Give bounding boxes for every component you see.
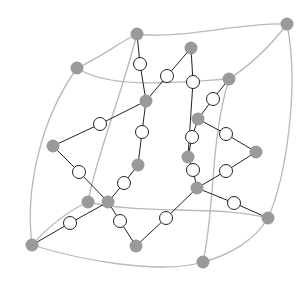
white-node — [187, 76, 200, 89]
gray-node — [182, 151, 195, 164]
curve — [137, 24, 287, 35]
white-node — [64, 217, 77, 230]
gray-node — [191, 182, 204, 195]
gray-node — [47, 140, 60, 153]
white-node — [207, 93, 220, 106]
white-node — [114, 215, 127, 228]
curve — [32, 202, 88, 245]
white-node — [228, 197, 241, 210]
white-node — [160, 212, 173, 225]
gray-node — [281, 18, 294, 31]
white-node — [136, 126, 149, 139]
diagram-canvas — [0, 0, 308, 285]
white-node — [73, 166, 86, 179]
gray-node — [185, 42, 198, 55]
gray-node-layer — [26, 18, 294, 269]
gray-node — [102, 196, 115, 209]
white-node — [118, 177, 131, 190]
gray-node — [262, 212, 275, 225]
graph-diagram — [0, 0, 308, 285]
white-node — [220, 128, 233, 141]
gray-node — [71, 62, 84, 75]
gray-node — [26, 239, 39, 252]
edge — [100, 101, 146, 124]
gray-node — [223, 73, 236, 86]
white-node — [94, 118, 107, 131]
curve — [77, 68, 229, 83]
white-node — [186, 131, 199, 144]
gray-node — [250, 146, 263, 159]
gray-node — [192, 113, 205, 126]
curve — [229, 24, 287, 79]
curve — [77, 34, 137, 68]
gray-node — [140, 95, 153, 108]
gray-node — [130, 240, 143, 253]
white-node — [220, 165, 233, 178]
curve — [32, 245, 203, 267]
curve — [203, 218, 268, 262]
curve — [268, 24, 292, 218]
white-node — [187, 164, 200, 177]
curve-layer — [30, 24, 292, 267]
gray-node — [132, 159, 145, 172]
white-node — [134, 58, 147, 71]
gray-node — [131, 28, 144, 41]
gray-node — [82, 196, 95, 209]
white-node — [161, 70, 174, 83]
edge — [53, 124, 100, 146]
gray-node — [197, 256, 210, 269]
curve — [88, 202, 268, 218]
